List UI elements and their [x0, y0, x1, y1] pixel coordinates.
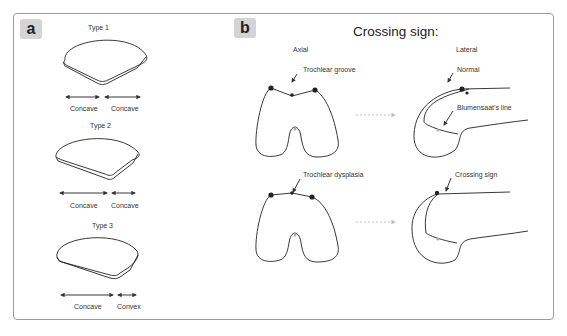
type2-patella-shape: [56, 139, 139, 180]
diagram-drawings: [0, 0, 567, 336]
axial-normal-trochlea: [256, 88, 338, 157]
type1-patella-shape: [63, 40, 147, 84]
lateral-normal-femur: [414, 88, 528, 157]
type3-patella-shape: [57, 238, 138, 279]
axial-dysplasia-trochlea: [256, 193, 338, 262]
lateral-crossing-femur: [412, 192, 528, 263]
